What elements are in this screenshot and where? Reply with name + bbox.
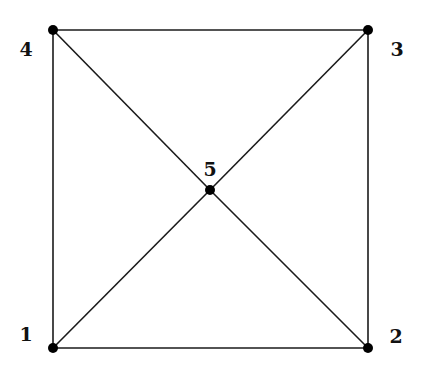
node-label-1: 1 bbox=[19, 323, 32, 345]
node-4 bbox=[48, 25, 58, 35]
node-label-5: 5 bbox=[203, 158, 216, 180]
node-1 bbox=[48, 343, 58, 353]
edge-5-2 bbox=[210, 190, 368, 348]
edge-4-5 bbox=[53, 30, 210, 190]
edge-5-3 bbox=[210, 30, 368, 190]
node-label-4: 4 bbox=[19, 38, 32, 60]
node-label-3: 3 bbox=[390, 38, 403, 60]
edge-1-5 bbox=[53, 190, 210, 348]
node-label-2: 2 bbox=[389, 325, 402, 347]
graph-diagram: 12345 bbox=[0, 0, 426, 366]
node-5 bbox=[205, 185, 215, 195]
node-3 bbox=[363, 25, 373, 35]
node-2 bbox=[363, 343, 373, 353]
